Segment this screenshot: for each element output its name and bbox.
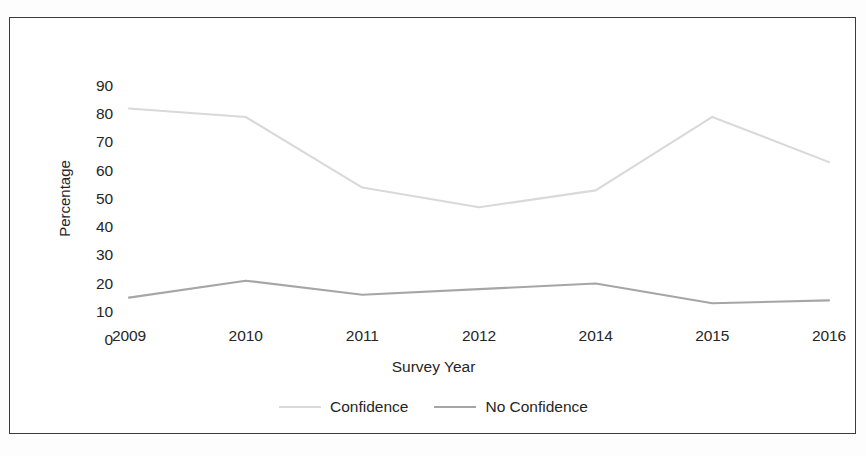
chart-frame: Percentage 9080706050403020100 200920102… [9,17,856,434]
y-tick-label: 30 [73,247,113,263]
legend-line-swatch [279,406,321,408]
series-line-no-confidence [129,281,829,304]
y-tick-label: 50 [73,191,113,207]
x-tick-label: 2016 [812,328,846,344]
series-line-confidence [129,109,829,208]
x-tick-label: 2011 [346,328,379,344]
x-tick-label: 2009 [112,328,146,344]
legend-line-swatch [434,406,476,408]
legend-label: No Confidence [485,399,588,415]
y-tick-label: 20 [73,276,113,292]
y-tick-label: 60 [73,163,113,179]
plot-area [129,69,829,323]
x-tick-label: 2012 [462,328,496,344]
y-tick-label: 0 [73,332,113,348]
x-tick-label: 2010 [229,328,263,344]
x-axis-title: Survey Year [19,358,848,376]
y-tick-label: 80 [73,106,113,122]
y-tick-label: 90 [73,78,113,94]
chart-legend: ConfidenceNo Confidence [19,399,848,415]
series-group [129,109,829,304]
y-tick-label: 10 [73,304,113,320]
x-axis-tick-labels: 2009201020112012201420152016 [129,328,829,352]
legend-entry[interactable]: Confidence [279,399,408,415]
x-tick-label: 2014 [579,328,613,344]
legend-label: Confidence [330,399,408,415]
plot-svg [129,69,829,323]
y-tick-label: 40 [73,219,113,235]
legend-entry[interactable]: No Confidence [434,399,588,415]
chart-page: Percentage 9080706050403020100 200920102… [0,0,866,456]
y-tick-label: 70 [73,134,113,150]
x-tick-label: 2015 [695,328,729,344]
